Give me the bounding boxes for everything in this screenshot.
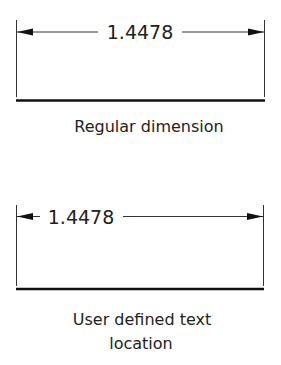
left-arrow-icon <box>17 29 33 36</box>
caption-line-2: location <box>109 334 172 353</box>
caption-line-1: Regular dimension <box>74 117 223 136</box>
left-arrow-icon <box>17 213 33 220</box>
right-arrow-icon <box>247 213 263 220</box>
regular-dimension-diagram: 1.4478 Regular dimension <box>16 20 265 136</box>
dimension-diagrams: 1.4478 Regular dimension 1.4478 User def… <box>0 0 281 365</box>
user-defined-text-location-diagram: 1.4478 User defined text location <box>16 205 264 353</box>
caption-line-1: User defined text <box>73 310 211 329</box>
dimension-value: 1.4478 <box>48 206 114 228</box>
right-arrow-icon <box>248 29 264 36</box>
dimension-value: 1.4478 <box>107 21 173 43</box>
